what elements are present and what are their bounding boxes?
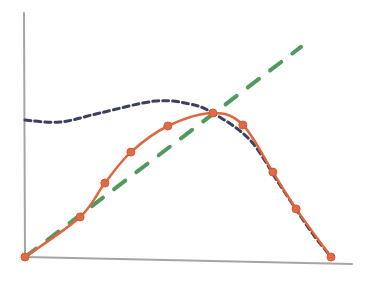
data-point-marker bbox=[239, 121, 247, 129]
series-line-solid bbox=[25, 113, 331, 257]
data-point-marker bbox=[127, 148, 135, 156]
line-chart bbox=[0, 0, 368, 293]
data-point-marker bbox=[209, 109, 217, 117]
y-axis bbox=[24, 13, 25, 258]
series-layer bbox=[21, 47, 335, 261]
data-point-marker bbox=[327, 253, 335, 261]
data-point-marker bbox=[76, 213, 84, 221]
x-axis bbox=[25, 257, 352, 264]
data-point-marker bbox=[21, 253, 29, 261]
data-point-marker bbox=[101, 179, 109, 187]
data-point-marker bbox=[292, 205, 300, 213]
series-line-dotted bbox=[25, 101, 331, 257]
axes bbox=[24, 13, 352, 264]
data-point-marker bbox=[164, 122, 172, 130]
data-point-marker bbox=[269, 168, 277, 176]
